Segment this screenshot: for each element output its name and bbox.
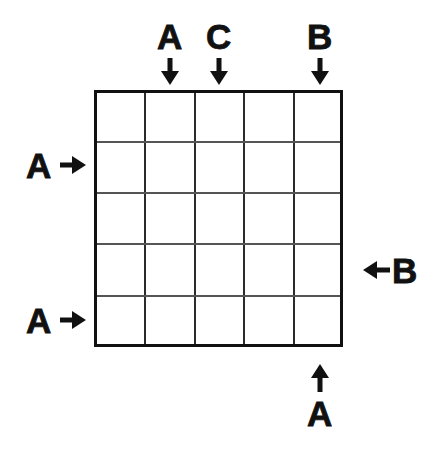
grid-inner-lines xyxy=(97,93,340,344)
arrow-right-icon xyxy=(60,307,87,333)
bottom-marker-label-0: A xyxy=(307,396,332,431)
puzzle-figure: A C B A A B A xyxy=(0,0,439,452)
top-marker-label-2: B xyxy=(307,19,332,54)
grid-hline-2 xyxy=(97,192,340,194)
grid-vline-4 xyxy=(293,93,295,344)
grid-hline-3 xyxy=(97,243,340,245)
grid-hline-1 xyxy=(97,141,340,143)
arrow-left-icon xyxy=(363,257,390,283)
right-marker-label-0: B xyxy=(392,253,417,288)
top-marker-label-1: C xyxy=(206,19,231,54)
arrow-down-icon xyxy=(165,58,175,86)
grid-hline-4 xyxy=(97,295,340,297)
left-marker-label-0: A xyxy=(26,148,51,183)
arrow-right-icon xyxy=(60,152,87,178)
arrow-down-icon xyxy=(214,58,224,86)
grid-vline-2 xyxy=(194,93,196,344)
top-marker-label-0: A xyxy=(157,19,182,54)
puzzle-grid xyxy=(94,90,343,347)
grid-vline-3 xyxy=(243,93,245,344)
grid-vline-1 xyxy=(144,93,146,344)
arrow-up-icon xyxy=(315,364,325,392)
left-marker-label-1: A xyxy=(26,303,51,338)
arrow-down-icon xyxy=(315,58,325,86)
